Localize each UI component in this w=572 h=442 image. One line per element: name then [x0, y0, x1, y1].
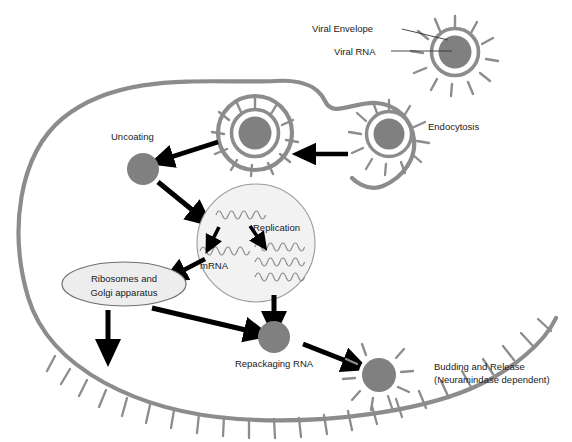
organelle-outline — [62, 262, 186, 306]
nucleus: Replication mRNA — [197, 184, 315, 302]
label-uncoating: Uncoating — [111, 131, 154, 142]
label-ribosomes-line2: Golgi apparatus — [90, 287, 157, 298]
virus-replication-diagram: Viral Envelope Viral RNA Endocytosis — [0, 0, 572, 442]
ribosomes-golgi-organelle: Ribosomes and Golgi apparatus — [62, 262, 186, 306]
arrow-vesicle-to-uncoating — [168, 142, 218, 158]
budding-core — [362, 358, 396, 392]
label-repackaging-rna: Repackaging RNA — [235, 358, 314, 369]
nuclear-membrane — [197, 184, 315, 302]
arrow-uncoating-to-nucleus — [158, 182, 196, 213]
label-viral-rna: Viral RNA — [334, 46, 376, 57]
label-replication: Replication — [253, 222, 300, 233]
budding-virion — [343, 344, 413, 410]
uncoated-viral-core — [127, 153, 159, 185]
endocytosed-virion — [349, 100, 429, 175]
arrow-organelle-to-repackaging — [152, 308, 250, 331]
repackaged-nucleocapsid — [258, 321, 290, 353]
label-ribosomes-line1: Ribosomes and — [91, 273, 157, 284]
viral-rna-core — [439, 36, 472, 69]
label-endocytosis: Endocytosis — [428, 121, 479, 132]
label-viral-envelope: Viral Envelope — [312, 23, 373, 34]
free-virion — [411, 16, 498, 96]
endocytic-vesicle — [212, 96, 298, 176]
label-budding-line2: (Neuramindase dependent) — [434, 374, 550, 385]
label-budding-line1: Budding and Release — [434, 361, 525, 372]
diagram-canvas: Viral Envelope Viral RNA Endocytosis — [0, 0, 572, 442]
